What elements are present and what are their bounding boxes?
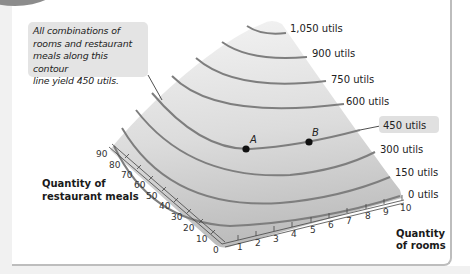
contour-label-1050: 1,050 utils <box>290 23 343 34</box>
rooms-axis-title-line2: of rooms <box>396 240 446 251</box>
svg-text:40: 40 <box>159 201 171 211</box>
contour-label-450: 450 utils <box>383 120 426 131</box>
contour-label-600: 600 utils <box>346 96 389 107</box>
point-a-marker <box>242 145 249 152</box>
contour-label-750: 750 utils <box>331 74 374 85</box>
svg-text:1: 1 <box>237 242 243 252</box>
svg-text:2: 2 <box>255 238 261 248</box>
svg-text:10: 10 <box>400 203 412 213</box>
svg-text:8: 8 <box>365 211 371 221</box>
meals-axis-title-line2: restaurant meals <box>42 191 139 202</box>
svg-text:3: 3 <box>273 234 279 244</box>
svg-text:30: 30 <box>171 212 183 222</box>
svg-text:6: 6 <box>328 220 334 230</box>
contour-label-300: 300 utils <box>380 144 423 155</box>
svg-text:5: 5 <box>310 225 316 235</box>
svg-text:90: 90 <box>96 149 108 159</box>
point-b-label: B <box>312 127 319 138</box>
contour-label-150: 150 utils <box>395 167 438 178</box>
svg-text:70: 70 <box>121 170 133 180</box>
callout-line-1: All combinations of <box>33 25 143 38</box>
label-450-leader <box>360 126 380 130</box>
svg-text:0: 0 <box>213 245 219 255</box>
rooms-axis-title-line1: Quantity <box>396 228 445 239</box>
callout-line-4: line yield 450 utils. <box>33 75 143 88</box>
contour-label-0: 0 utils <box>408 189 439 200</box>
contour-label-900: 900 utils <box>312 48 355 59</box>
callout-line-3: meals along this contour <box>33 50 143 75</box>
svg-text:9: 9 <box>383 207 389 217</box>
callout-line-2: rooms and restaurant <box>33 38 143 51</box>
point-b-marker <box>305 138 312 145</box>
svg-text:10: 10 <box>196 234 208 244</box>
annotation-callout: All combinations of rooms and restaurant… <box>28 22 148 77</box>
svg-text:4: 4 <box>291 229 297 239</box>
svg-text:7: 7 <box>346 216 352 226</box>
meals-axis-title-line1: Quantity of <box>42 178 106 189</box>
svg-text:50: 50 <box>146 191 158 201</box>
svg-text:80: 80 <box>109 160 121 170</box>
point-a-label: A <box>249 134 257 145</box>
svg-text:60: 60 <box>134 180 146 190</box>
svg-text:20: 20 <box>183 223 195 233</box>
